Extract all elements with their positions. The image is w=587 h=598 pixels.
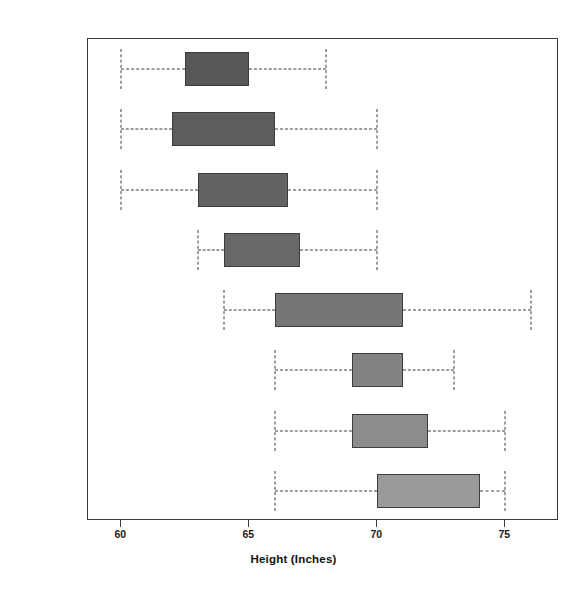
boxplot-figure: Soprano 1Soprano 2Alto 1Alto 2Tenor 1Ten… xyxy=(0,0,587,598)
whisker-low xyxy=(121,129,172,130)
whisker-cap-low xyxy=(198,230,199,270)
box-alto-1 xyxy=(198,173,288,207)
box-alto-2 xyxy=(224,233,301,267)
whisker-cap-high xyxy=(377,230,378,270)
box-tenor-2 xyxy=(352,353,403,387)
category-axis: Soprano 1Soprano 2Alto 1Alto 2Tenor 1Ten… xyxy=(0,0,80,598)
whisker-cap-high xyxy=(377,109,378,149)
whisker-high xyxy=(249,69,326,70)
whisker-low xyxy=(224,310,275,311)
x-axis-title: Height (Inches) xyxy=(0,553,587,565)
whisker-cap-low xyxy=(223,290,224,330)
whisker-cap-high xyxy=(377,170,378,210)
x-axis-tick-label: 60 xyxy=(114,528,126,540)
x-axis-tick-label: 70 xyxy=(370,528,382,540)
box-soprano-2 xyxy=(172,112,274,146)
x-axis-tick-label: 75 xyxy=(498,528,510,540)
whisker-high xyxy=(428,430,505,431)
whisker-low xyxy=(198,249,224,250)
whisker-cap-low xyxy=(274,350,275,390)
whisker-cap-low xyxy=(274,411,275,451)
whisker-cap-high xyxy=(530,290,531,330)
x-axis-tick xyxy=(504,520,505,527)
box-bass-1 xyxy=(352,414,429,448)
whisker-high xyxy=(403,310,531,311)
whisker-high xyxy=(288,189,378,190)
box-tenor-1 xyxy=(275,293,403,327)
whisker-low xyxy=(275,430,352,431)
box-bass-2 xyxy=(377,474,479,508)
plot-area xyxy=(87,38,558,520)
whisker-high xyxy=(403,370,454,371)
whisker-cap-low xyxy=(121,170,122,210)
whisker-cap-low xyxy=(121,49,122,89)
x-axis-tick xyxy=(376,520,377,527)
whisker-low xyxy=(275,490,377,491)
whisker-cap-high xyxy=(454,350,455,390)
whisker-low xyxy=(275,370,352,371)
whisker-low xyxy=(121,69,185,70)
whisker-high xyxy=(275,129,377,130)
x-axis-tick xyxy=(120,520,121,527)
x-axis-tick-label: 65 xyxy=(242,528,254,540)
whisker-high xyxy=(480,490,506,491)
whisker-cap-low xyxy=(274,471,275,511)
whisker-high xyxy=(300,249,377,250)
whisker-low xyxy=(121,189,198,190)
x-axis-tick xyxy=(248,520,249,527)
whisker-cap-high xyxy=(326,49,327,89)
box-soprano-1 xyxy=(185,52,249,86)
whisker-cap-low xyxy=(121,109,122,149)
whisker-cap-high xyxy=(505,471,506,511)
whisker-cap-high xyxy=(505,411,506,451)
